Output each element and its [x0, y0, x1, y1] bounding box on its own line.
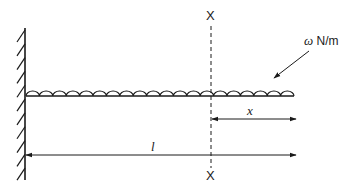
load-unit: N/m: [317, 34, 339, 48]
cantilever-diagram: [0, 0, 354, 190]
wall-hatching: [17, 30, 25, 180]
hatch-mark: [17, 154, 25, 166]
hatch-mark: [17, 71, 25, 83]
section-label-bottom: X: [206, 169, 215, 182]
section-label-top: X: [206, 9, 215, 22]
dimension-x-label: x: [247, 104, 253, 117]
hatch-mark: [17, 127, 25, 139]
distributed-load: [26, 91, 294, 96]
load-pointer-arrow: [274, 51, 309, 78]
fixed-wall-support: [17, 28, 25, 180]
hatch-mark: [17, 85, 25, 97]
hatch-mark: [17, 113, 25, 125]
hatch-mark: [17, 99, 25, 111]
hatch-mark: [17, 168, 25, 180]
load-symbol: ω: [304, 33, 313, 48]
hatch-mark: [17, 58, 25, 70]
load-arcs: [26, 91, 294, 96]
load-label: ω N/m: [304, 34, 339, 47]
hatch-mark: [17, 141, 25, 153]
hatch-mark: [17, 30, 25, 42]
hatch-mark: [17, 44, 25, 56]
dimension-l-label: l: [151, 140, 155, 153]
